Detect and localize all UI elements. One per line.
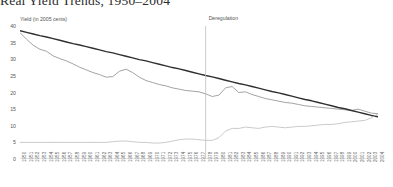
y-tick-label: 10 (2, 123, 16, 129)
y-tick-label: 25 (2, 73, 16, 79)
y-tick-label: 15 (2, 106, 16, 112)
y-axis-label: Yield (in 2005 cents) (20, 16, 67, 22)
plot-area (20, 26, 378, 159)
y-tick-label: 0 (2, 156, 16, 162)
y-tick-label: 20 (2, 90, 16, 96)
x-tick-label: 2004 (380, 152, 385, 162)
series-line (20, 114, 378, 143)
y-tick-label: 40 (2, 23, 16, 29)
y-tick-label: 35 (2, 40, 16, 46)
chart-svg (20, 26, 378, 159)
chart-container: Real Yield Trends, 1950–2004 Yield (in 2… (0, 0, 393, 187)
series-group (20, 31, 378, 143)
y-tick-label: 5 (2, 139, 16, 145)
y-tick-label: 30 (2, 56, 16, 62)
series-line (20, 31, 378, 117)
chart-title: Real Yield Trends, 1950–2004 (0, 0, 170, 9)
annotation-label-deregulation: Deregulation (209, 15, 238, 21)
